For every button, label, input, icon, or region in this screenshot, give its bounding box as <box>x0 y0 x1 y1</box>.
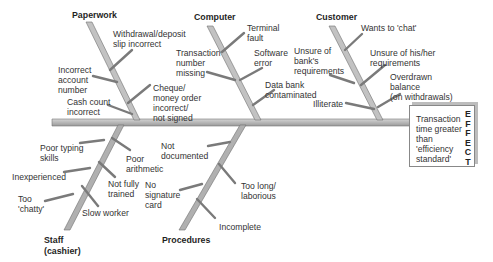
cause-label: Cash count incorrect <box>67 97 110 117</box>
cause-label: Poor arithmetic <box>126 154 163 174</box>
cause-label: Overdrawn balance (on withdrawals) <box>390 72 453 102</box>
cause-label: Unsure of his/her requirements <box>370 48 435 68</box>
category-staff: Staff (cashier) <box>44 235 81 256</box>
cause-label: Transaction number missing <box>176 48 221 78</box>
category-procedures: Procedures <box>162 235 210 246</box>
category-computer: Computer <box>194 12 236 23</box>
category-paperwork: Paperwork <box>72 10 117 21</box>
category-customer: Customer <box>316 12 357 23</box>
cause-label: Not documented <box>161 141 208 161</box>
cause-label: Terminal fault <box>247 23 279 43</box>
cause-label: Not fully trained <box>108 179 139 199</box>
cause-label: Withdrawal/deposit slip incorrect <box>113 29 186 49</box>
cause-label: Software error <box>254 48 288 68</box>
cause-label: Poor typing skills <box>40 143 83 163</box>
cause-label: Wants to 'chat' <box>361 23 417 33</box>
cause-label: No signature card <box>145 180 180 210</box>
cause-label: Too long/ laborious <box>241 181 276 201</box>
cause-label: Incomplete <box>219 222 261 232</box>
cause-label: Data bank contaminated <box>265 80 317 100</box>
cause-label: Unsure of bank's requirements <box>294 46 344 76</box>
cause-label: Cheque/ money order incorrect/ not signe… <box>153 83 201 123</box>
spine <box>52 119 412 126</box>
cause-label: Slow worker <box>82 208 129 218</box>
cause-label: Too 'chatty' <box>18 194 44 214</box>
cause-label: Illiterate <box>313 99 343 109</box>
cause-label: Incorrect account number <box>58 65 91 95</box>
effect-text: Transaction time greater than 'efficienc… <box>416 114 462 164</box>
cause-label: Inexperienced <box>12 172 66 182</box>
effect-box: Transaction time greater than 'efficienc… <box>409 105 475 167</box>
effect-label: EFFECT <box>464 110 472 167</box>
